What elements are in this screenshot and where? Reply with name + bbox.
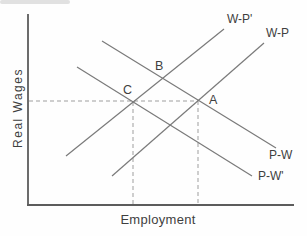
curve-label-pw-prime: P-W' bbox=[258, 170, 284, 182]
diagram-canvas bbox=[0, 0, 307, 236]
economics-diagram: W-P' W-P P-W P-W' A B C Real Wages Emplo… bbox=[0, 0, 307, 236]
curve-wp bbox=[112, 43, 264, 176]
x-axis-label: Employment bbox=[108, 212, 208, 227]
point-label-b: B bbox=[155, 60, 163, 73]
curve-pw-prime bbox=[77, 67, 252, 176]
curve-label-wp-prime: W-P' bbox=[227, 13, 252, 25]
curve-label-pw: P-W bbox=[269, 149, 292, 161]
y-axis-label: Real Wages bbox=[11, 68, 25, 148]
curve-label-wp: W-P bbox=[266, 27, 289, 39]
point-label-c: C bbox=[123, 84, 132, 97]
point-label-a: A bbox=[209, 94, 217, 107]
curve-wp-prime bbox=[66, 29, 224, 156]
